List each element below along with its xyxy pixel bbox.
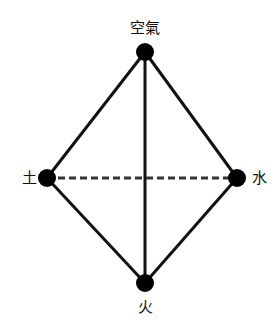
node-fire xyxy=(136,274,154,292)
label-air: 空氣 xyxy=(130,19,160,37)
label-fire: 火 xyxy=(138,298,153,316)
edge-water-fire xyxy=(145,178,237,283)
edge-air-earth xyxy=(47,52,145,178)
node-water xyxy=(228,169,246,187)
edges xyxy=(47,52,237,283)
node-air xyxy=(136,43,154,61)
edge-air-water xyxy=(145,52,237,178)
label-earth: 土 xyxy=(22,169,37,187)
nodes xyxy=(38,43,246,292)
node-earth xyxy=(38,169,56,187)
edge-earth-fire xyxy=(47,178,145,283)
tetrahedron-diagram: 空氣土水火 xyxy=(0,0,279,331)
label-water: 水 xyxy=(252,169,267,187)
